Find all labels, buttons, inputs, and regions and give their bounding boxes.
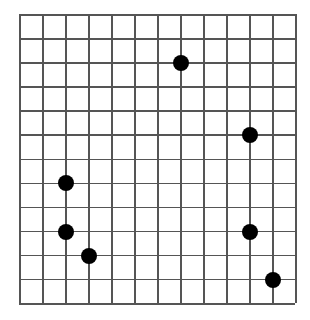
grid-line-horizontal bbox=[19, 303, 295, 305]
grid-line-vertical bbox=[19, 14, 21, 303]
grid-line-vertical bbox=[203, 14, 205, 303]
grid-line-vertical bbox=[295, 14, 297, 303]
grid-line-vertical bbox=[272, 14, 274, 303]
black-stone bbox=[58, 175, 74, 191]
grid-line-vertical bbox=[249, 14, 251, 303]
grid-line-vertical bbox=[226, 14, 228, 303]
black-stone bbox=[265, 272, 281, 288]
black-stone bbox=[242, 127, 258, 143]
game-board[interactable] bbox=[19, 14, 295, 303]
grid-line-vertical bbox=[157, 14, 159, 303]
grid-line-vertical bbox=[134, 14, 136, 303]
grid-line-vertical bbox=[65, 14, 67, 303]
grid-line-vertical bbox=[42, 14, 44, 303]
black-stone bbox=[242, 224, 258, 240]
black-stone bbox=[173, 55, 189, 71]
grid-line-vertical bbox=[111, 14, 113, 303]
black-stone bbox=[58, 224, 74, 240]
black-stone bbox=[81, 248, 97, 264]
